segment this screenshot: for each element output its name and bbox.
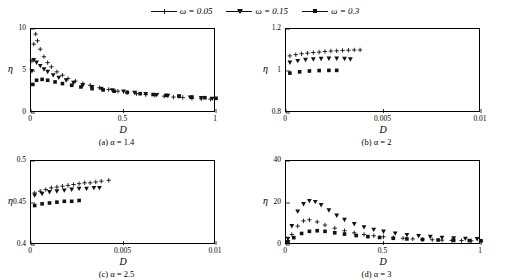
x-tick-label: 1 [465, 246, 495, 255]
x-tick-label: 1 [200, 114, 230, 123]
y-tick-label: 0.5 [4, 155, 26, 164]
x-tick-label: 0.5 [108, 114, 138, 123]
x-axis-label: D [380, 256, 387, 267]
legend-entry-1: ω = 0.15 [226, 6, 288, 16]
legend-marker-plus-icon [151, 7, 177, 15]
x-tick-label: 0.01 [200, 246, 230, 255]
legend: ω = 0.05 ω = 0.15 ω = 0.3 [0, 6, 510, 16]
panel-caption: (c) α = 2.5 [4, 269, 229, 279]
y-tick-label: 1 [259, 65, 281, 74]
y-tick-label: 40 [259, 155, 281, 164]
data-layer [31, 161, 216, 245]
x-tick-label: 0.5 [368, 246, 398, 255]
y-tick-label: 10 [4, 23, 26, 32]
x-tick-label: 0.01 [465, 114, 495, 123]
y-tick-label: 1.2 [259, 23, 281, 32]
plot-area [285, 160, 480, 244]
legend-entry-0: ω = 0.05 [151, 6, 213, 16]
data-layer [286, 161, 481, 245]
legend-marker-triangle-icon [226, 7, 252, 15]
chart-panel-d: η0204000.51D(d) α = 3 [259, 150, 494, 280]
y-tick-label: 5 [4, 65, 26, 74]
x-tick-label: 0 [270, 114, 300, 123]
x-tick-label: 0.005 [108, 246, 138, 255]
chart-panel-a: η051000.51D(a) α = 1.4 [4, 18, 229, 148]
chart-panel-b: η0.811.200.0050.01D(b) α = 2 [259, 18, 494, 148]
x-tick-label: 0 [15, 246, 45, 255]
data-layer [31, 29, 216, 113]
plot-area [285, 28, 480, 112]
data-layer [286, 29, 481, 113]
x-tick-label: 0.005 [368, 114, 398, 123]
legend-entry-2: ω = 0.3 [302, 6, 359, 16]
y-tick-label: 20 [259, 197, 281, 206]
legend-marker-square-icon [302, 7, 328, 15]
legend-label-1: ω = 0.15 [255, 6, 288, 16]
panel-caption: (b) α = 2 [259, 137, 494, 147]
panel-caption: (a) α = 1.4 [4, 137, 229, 147]
x-axis-label: D [380, 124, 387, 135]
y-tick-label: 0.45 [4, 197, 26, 206]
x-axis-label: D [120, 256, 127, 267]
chart-panel-c: η0.40.450.500.0050.01D(c) α = 2.5 [4, 150, 229, 280]
x-tick-label: 0 [270, 246, 300, 255]
plot-area [30, 28, 215, 112]
legend-label-2: ω = 0.3 [331, 6, 359, 16]
legend-label-0: ω = 0.05 [180, 6, 213, 16]
x-axis-label: D [120, 124, 127, 135]
panel-caption: (d) α = 3 [259, 269, 494, 279]
plot-area [30, 160, 215, 244]
x-tick-label: 0 [15, 114, 45, 123]
